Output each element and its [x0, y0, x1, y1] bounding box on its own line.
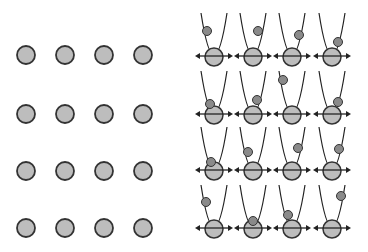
oscillating-ball: [334, 98, 343, 107]
oscillating-ball: [206, 100, 215, 109]
arrow-left-icon: [234, 111, 239, 117]
oscillating-ball: [294, 144, 303, 153]
arrow-right-icon: [228, 111, 233, 117]
arrow-left-icon: [234, 53, 239, 59]
arrow-right-icon: [228, 167, 233, 173]
atom-circle: [95, 219, 113, 237]
arrow-left-icon: [195, 225, 200, 231]
atom-circle: [95, 162, 113, 180]
atom-circle: [17, 105, 35, 123]
atom-circle: [134, 105, 152, 123]
arrow-right-icon: [267, 225, 272, 231]
atom-circle: [56, 162, 74, 180]
atom-circle: [17, 219, 35, 237]
atom-circle: [283, 106, 301, 124]
oscillating-ball: [335, 145, 344, 154]
atom-circle: [323, 162, 341, 180]
oscillating-ball: [295, 31, 304, 40]
atom-circle: [323, 220, 341, 238]
lattice-diagram: [0, 0, 368, 252]
atom-circle: [95, 105, 113, 123]
oscillating-ball: [284, 211, 293, 220]
oscillating-ball: [279, 76, 288, 85]
atom-circle: [17, 162, 35, 180]
arrow-right-icon: [267, 167, 272, 173]
oscillating-ball: [207, 158, 216, 167]
oscillating-ball: [249, 217, 258, 226]
atom-circle: [205, 106, 223, 124]
oscillating-ball: [337, 192, 346, 201]
arrow-right-icon: [228, 225, 233, 231]
oscillating-ball: [202, 198, 211, 207]
arrow-right-icon: [306, 111, 311, 117]
atom-circle: [56, 219, 74, 237]
arrow-right-icon: [306, 53, 311, 59]
arrow-left-icon: [234, 225, 239, 231]
arrow-right-icon: [346, 167, 351, 173]
atom-circle: [56, 105, 74, 123]
arrow-left-icon: [313, 111, 318, 117]
arrow-left-icon: [273, 225, 278, 231]
atom-circle: [244, 48, 262, 66]
arrow-right-icon: [346, 53, 351, 59]
atom-circle: [283, 220, 301, 238]
atom-circle: [205, 48, 223, 66]
arrow-right-icon: [346, 111, 351, 117]
atom-circle: [244, 106, 262, 124]
atom-circle: [283, 162, 301, 180]
atom-circle: [323, 48, 341, 66]
atom-circle: [56, 46, 74, 64]
atom-circle: [95, 46, 113, 64]
arrow-left-icon: [273, 53, 278, 59]
arrow-left-icon: [313, 225, 318, 231]
oscillating-ball: [334, 38, 343, 47]
arrow-right-icon: [267, 53, 272, 59]
atom-circle: [205, 220, 223, 238]
arrow-left-icon: [234, 167, 239, 173]
arrow-left-icon: [273, 167, 278, 173]
arrow-left-icon: [195, 111, 200, 117]
arrow-left-icon: [195, 53, 200, 59]
oscillating-ball: [244, 148, 253, 157]
arrow-left-icon: [195, 167, 200, 173]
oscillating-ball: [203, 27, 212, 36]
arrow-right-icon: [306, 167, 311, 173]
diagram-canvas: [0, 0, 368, 252]
arrow-left-icon: [313, 167, 318, 173]
atom-circle: [134, 46, 152, 64]
atom-circle: [323, 106, 341, 124]
arrow-right-icon: [228, 53, 233, 59]
arrow-left-icon: [273, 111, 278, 117]
arrow-right-icon: [306, 225, 311, 231]
atom-circle: [17, 46, 35, 64]
atom-circle: [283, 48, 301, 66]
atom-circle: [134, 219, 152, 237]
arrow-right-icon: [267, 111, 272, 117]
atom-circle: [134, 162, 152, 180]
arrow-left-icon: [313, 53, 318, 59]
atom-circle: [244, 162, 262, 180]
arrow-right-icon: [346, 225, 351, 231]
oscillating-ball: [253, 96, 262, 105]
oscillating-ball: [254, 27, 263, 36]
